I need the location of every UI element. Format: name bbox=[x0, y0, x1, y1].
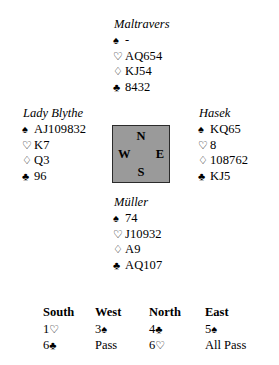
bid-level: All Pass bbox=[205, 338, 246, 352]
west-club-row: ♣ 96 bbox=[22, 169, 86, 185]
diamond-icon: ♢ bbox=[198, 153, 210, 169]
diamond-icon: ♢ bbox=[113, 64, 125, 80]
auction-header-row: South West North East bbox=[43, 305, 263, 322]
auction-header-south: South bbox=[43, 305, 95, 322]
club-icon: ♣ bbox=[198, 169, 210, 185]
heart-icon: ♡ bbox=[22, 138, 34, 154]
club-icon: ♣ bbox=[113, 258, 125, 274]
bid-level: Pass bbox=[95, 338, 117, 352]
spade-icon: ♠ bbox=[198, 122, 210, 138]
east-spades: KQ65 bbox=[210, 122, 241, 138]
spade-icon: ♠ bbox=[113, 211, 125, 227]
west-spade-row: ♠ AJ109832 bbox=[22, 122, 86, 138]
hand-east: Hasek ♠ KQ65 ♡ 8 ♢ 108762 ♣ KJ5 bbox=[198, 106, 248, 184]
north-diamonds: KJ54 bbox=[125, 64, 152, 80]
south-clubs: AQ107 bbox=[125, 258, 162, 274]
west-spades: AJ109832 bbox=[34, 122, 86, 138]
hand-north: Maltravers ♠ - ♡ AQ654 ♢ KJ54 ♣ 8432 bbox=[113, 17, 170, 95]
west-heart-row: ♡ K7 bbox=[22, 138, 86, 154]
west-hearts: K7 bbox=[34, 138, 49, 154]
diamond-icon: ♢ bbox=[113, 242, 125, 258]
bid-suit-icon: ♡ bbox=[49, 323, 59, 335]
auction-header-west: West bbox=[95, 305, 149, 322]
north-clubs: 8432 bbox=[125, 80, 150, 96]
south-heart-row: ♡ J10932 bbox=[113, 227, 162, 243]
heart-icon: ♡ bbox=[113, 49, 125, 65]
hand-south: Müller ♠ 74 ♡ J10932 ♢ A9 ♣ AQ107 bbox=[113, 195, 162, 273]
north-hearts: AQ654 bbox=[125, 49, 162, 65]
spade-icon: ♠ bbox=[113, 33, 125, 49]
west-diamonds: Q3 bbox=[34, 153, 49, 169]
south-spade-row: ♠ 74 bbox=[113, 211, 162, 227]
south-spades: 74 bbox=[125, 211, 138, 227]
bid-suit-icon: ♣ bbox=[155, 323, 162, 335]
auction-header-east: East bbox=[205, 305, 263, 322]
compass-label-west: W bbox=[118, 148, 131, 161]
bid-suit-icon: ♠ bbox=[101, 323, 107, 335]
north-club-row: ♣ 8432 bbox=[113, 80, 170, 96]
compass-box: N W E S bbox=[112, 125, 170, 183]
bid-suit-icon: ♡ bbox=[155, 339, 165, 351]
north-spade-row: ♠ - bbox=[113, 33, 170, 49]
bid-east-round-1: 5♠ bbox=[205, 322, 263, 338]
compass-label-east: E bbox=[156, 148, 164, 161]
bid-south-round-1: 1♡ bbox=[43, 322, 95, 338]
south-diamond-row: ♢ A9 bbox=[113, 242, 162, 258]
east-diamond-row: ♢ 108762 bbox=[198, 153, 248, 169]
north-diamond-row: ♢ KJ54 bbox=[113, 64, 170, 80]
auction-row: 6♣ Pass 6♡ All Pass bbox=[43, 338, 263, 354]
club-icon: ♣ bbox=[22, 169, 34, 185]
east-hearts: 8 bbox=[210, 138, 216, 154]
compass-label-north: N bbox=[136, 130, 145, 143]
bid-suit-icon: ♣ bbox=[49, 339, 56, 351]
heart-icon: ♡ bbox=[113, 227, 125, 243]
hand-west: Lady Blythe ♠ AJ109832 ♡ K7 ♢ Q3 ♣ 96 bbox=[22, 106, 86, 184]
diamond-icon: ♢ bbox=[22, 153, 34, 169]
north-heart-row: ♡ AQ654 bbox=[113, 49, 170, 65]
bid-west-round-2: Pass bbox=[95, 338, 149, 354]
east-diamonds: 108762 bbox=[210, 153, 248, 169]
compass-label-south: S bbox=[138, 166, 145, 179]
player-name-east: Hasek bbox=[199, 106, 248, 121]
east-club-row: ♣ KJ5 bbox=[198, 169, 248, 185]
bid-south-round-2: 6♣ bbox=[43, 338, 95, 354]
east-spade-row: ♠ KQ65 bbox=[198, 122, 248, 138]
auction-row: 1♡ 3♠ 4♣ 5♠ bbox=[43, 322, 263, 338]
club-icon: ♣ bbox=[113, 80, 125, 96]
bid-north-round-1: 4♣ bbox=[149, 322, 205, 338]
bid-east-round-2: All Pass bbox=[205, 338, 263, 354]
bid-west-round-1: 3♠ bbox=[95, 322, 149, 338]
east-clubs: KJ5 bbox=[210, 169, 230, 185]
heart-icon: ♡ bbox=[198, 138, 210, 154]
player-name-west: Lady Blythe bbox=[23, 106, 86, 121]
west-diamond-row: ♢ Q3 bbox=[22, 153, 86, 169]
bid-north-round-2: 6♡ bbox=[149, 338, 205, 354]
north-spades: - bbox=[125, 33, 129, 49]
bid-suit-icon: ♠ bbox=[211, 323, 217, 335]
player-name-north: Maltravers bbox=[114, 17, 170, 32]
south-hearts: J10932 bbox=[125, 227, 162, 243]
west-clubs: 96 bbox=[34, 169, 47, 185]
south-diamonds: A9 bbox=[125, 242, 140, 258]
spade-icon: ♠ bbox=[22, 122, 34, 138]
south-club-row: ♣ AQ107 bbox=[113, 258, 162, 274]
player-name-south: Müller bbox=[114, 195, 162, 210]
auction-header-north: North bbox=[149, 305, 205, 322]
east-heart-row: ♡ 8 bbox=[198, 138, 248, 154]
auction-table: South West North East 1♡ 3♠ 4♣ 5♠ 6♣ Pas… bbox=[43, 305, 263, 353]
